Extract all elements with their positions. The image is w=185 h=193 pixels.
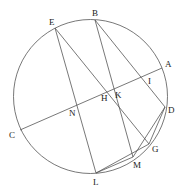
- circle: [14, 20, 168, 174]
- point-label-n: N: [69, 108, 76, 118]
- line-GD: [149, 107, 165, 144]
- point-label-g: G: [152, 144, 159, 154]
- point-label-k: K: [115, 90, 122, 100]
- geometry-diagram: ABCDEGHIKLMN: [0, 0, 185, 193]
- line-LG: [96, 144, 149, 173]
- point-label-d: D: [168, 105, 175, 115]
- segments-group: [20, 20, 165, 173]
- point-label-a: A: [165, 59, 172, 69]
- line-MD: [133, 107, 165, 157]
- line-LM: [96, 157, 133, 173]
- point-label-i: I: [148, 76, 151, 86]
- line-EL: [55, 28, 96, 173]
- point-label-c: C: [9, 130, 15, 140]
- point-label-e: E: [49, 17, 55, 27]
- line-BM: [95, 20, 133, 157]
- point-label-h: H: [101, 93, 108, 103]
- point-label-b: B: [92, 8, 98, 18]
- point-label-l: L: [93, 177, 99, 187]
- point-label-m: M: [133, 160, 141, 170]
